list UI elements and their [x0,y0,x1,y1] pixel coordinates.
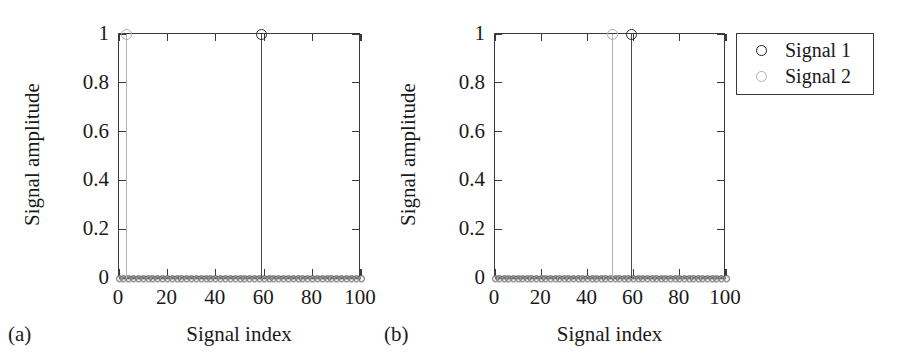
x-tick-label: 20 [156,287,177,308]
x-tick-mark [494,34,495,41]
x-tick-label: 0 [113,287,124,308]
open-circle-icon [756,71,767,82]
x-axis-title-a: Signal index [118,322,360,347]
y-tick-label: 0.8 [459,71,485,92]
y-tick-label: 0.2 [83,218,109,239]
x-tick-label: 0 [489,287,500,308]
y-tick-label: 1 [475,23,486,44]
x-tick-mark [118,34,119,41]
plot-area-b [494,33,725,277]
baseline-marker [723,275,730,282]
plot-area-a [118,33,360,277]
plot-inner-b [495,34,724,276]
y-tick-label: 0.6 [459,120,485,141]
y-tick-mark [495,33,502,34]
y-tick-mark [495,229,502,230]
x-tick-mark [215,34,216,41]
x-tick-mark [679,34,680,41]
x-tick-mark [312,34,313,41]
spike-stem-signal-1 [261,34,262,278]
y-tick-mark [495,82,502,83]
x-tick-label: 40 [204,287,225,308]
y-tick-mark [717,33,724,34]
x-tick-label: 100 [344,287,376,308]
y-tick-label: 1 [99,23,110,44]
x-tick-label: 80 [668,287,689,308]
y-tick-mark [352,229,359,230]
peak-marker-signal-1 [256,29,267,40]
x-tick-mark [725,34,726,41]
legend-label-signal-2: Signal 2 [785,65,851,88]
y-tick-label: 0.8 [83,71,109,92]
y-tick-mark [717,180,724,181]
y-tick-mark [352,180,359,181]
x-tick-mark [587,34,588,41]
subplot-caption-b: (b) [384,322,409,347]
y-tick-mark [352,131,359,132]
legend-entry-signal-1: Signal 1 [737,38,873,62]
x-axis-title-b: Signal index [494,322,725,347]
x-tick-mark [167,34,168,41]
y-tick-label: 0.6 [83,120,109,141]
y-tick-mark [717,229,724,230]
x-tick-label: 80 [301,287,322,308]
legend-entry-signal-2: Signal 2 [737,64,873,88]
peak-marker-signal-2 [607,29,618,40]
y-tick-mark [495,131,502,132]
x-tick-label: 100 [709,287,741,308]
plot-inner-a [119,34,359,276]
spike-stem-signal-2 [126,34,127,278]
legend-label-signal-1: Signal 1 [785,39,851,62]
y-tick-label: 0.4 [83,169,109,190]
figure-two-panel-signal-plot: 020406080100 00.20.40.60.81 Signal index… [0,0,918,359]
y-tick-label: 0.2 [459,218,485,239]
legend: Signal 1 Signal 2 [736,33,874,95]
x-tick-label: 60 [253,287,274,308]
spike-stem-signal-1 [631,34,632,278]
x-tick-label: 40 [576,287,597,308]
baseline-marker [358,275,365,282]
x-tick-label: 60 [622,287,643,308]
y-tick-label: 0 [475,267,486,288]
peak-marker-signal-2 [121,29,132,40]
y-tick-label: 0.4 [459,169,485,190]
y-tick-mark [717,131,724,132]
y-tick-mark [717,82,724,83]
x-tick-mark [541,34,542,41]
y-axis-title-a: Signal amplitude [20,33,45,277]
y-tick-label: 0 [99,267,110,288]
y-tick-mark [352,82,359,83]
y-tick-mark [352,33,359,34]
y-tick-mark [495,180,502,181]
subplot-caption-a: (a) [8,322,31,347]
open-circle-icon [756,45,767,56]
peak-marker-signal-1 [626,29,637,40]
spike-stem-signal-2 [612,34,613,278]
x-tick-mark [360,34,361,41]
x-tick-label: 20 [530,287,551,308]
y-axis-title-b: Signal amplitude [396,33,421,277]
